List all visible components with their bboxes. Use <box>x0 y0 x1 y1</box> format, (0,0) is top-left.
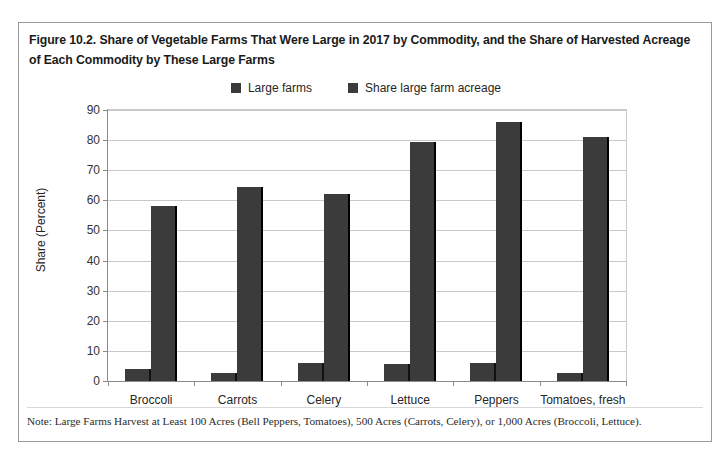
bar[interactable] <box>583 137 609 381</box>
bar-group <box>281 110 367 381</box>
bar[interactable] <box>410 142 436 381</box>
bar[interactable] <box>125 369 151 381</box>
y-tick-label: 30 <box>87 284 100 298</box>
bar[interactable] <box>496 122 522 381</box>
bar[interactable] <box>151 206 177 381</box>
y-tick-label: 60 <box>87 193 100 207</box>
x-axis-label: Peppers <box>453 393 539 407</box>
y-axis-title: Share (Percent) <box>34 150 48 310</box>
bar-group <box>367 110 453 381</box>
x-tick-mark <box>194 381 195 386</box>
chart-plot-wrapper: Share (Percent) 0102030405060708090Brocc… <box>19 23 713 443</box>
x-tick-mark <box>367 381 368 386</box>
bar-group <box>453 110 539 381</box>
plot-area: 0102030405060708090BroccoliCarrotsCelery… <box>107 109 627 381</box>
y-tick-label: 90 <box>87 103 100 117</box>
bar[interactable] <box>298 363 324 381</box>
bar-group <box>108 110 194 381</box>
y-tick-label: 20 <box>87 314 100 328</box>
bar-group <box>540 110 626 381</box>
x-tick-mark <box>108 381 109 386</box>
y-tick-label: 10 <box>87 344 100 358</box>
y-tick-label: 80 <box>87 133 100 147</box>
x-axis-label: Lettuce <box>367 393 453 407</box>
x-tick-mark <box>540 381 541 386</box>
bar[interactable] <box>384 364 410 381</box>
figure-frame: Figure 10.2. Share of Vegetable Farms Th… <box>18 22 712 442</box>
bar[interactable] <box>237 187 263 381</box>
y-tick-label: 0 <box>93 374 100 388</box>
bar[interactable] <box>470 363 496 381</box>
x-axis-label: Carrots <box>194 393 280 407</box>
y-tick-label: 40 <box>87 254 100 268</box>
bar[interactable] <box>211 373 237 381</box>
x-tick-mark <box>281 381 282 386</box>
note-separator <box>27 407 703 408</box>
y-tick-label: 70 <box>87 163 100 177</box>
bar-group <box>194 110 280 381</box>
x-tick-mark <box>626 381 627 386</box>
x-axis-label: Tomatoes, fresh <box>540 393 626 407</box>
x-axis-label: Broccoli <box>108 393 194 407</box>
bar[interactable] <box>324 194 350 381</box>
x-tick-mark <box>453 381 454 386</box>
figure-note: Note: Large Farms Harvest at Least 100 A… <box>27 414 703 428</box>
x-axis-label: Celery <box>281 393 367 407</box>
bar[interactable] <box>557 373 583 381</box>
y-tick-label: 50 <box>87 223 100 237</box>
